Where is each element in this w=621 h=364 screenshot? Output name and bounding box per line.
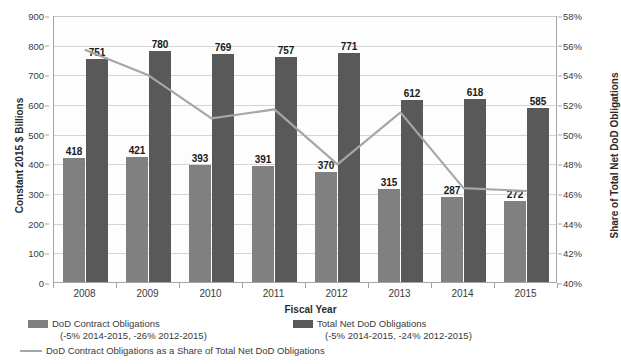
tick-mark xyxy=(45,224,49,225)
tick-mark xyxy=(494,283,495,288)
y-axis-right-tick: 46% xyxy=(563,189,605,200)
legend-label: Total Net DoD Obligations xyxy=(317,318,426,329)
legend-label-group: Total Net DoD Obligations (-5% 2014-2015… xyxy=(317,318,472,342)
tick-mark xyxy=(558,253,562,254)
tick-mark xyxy=(431,283,432,288)
x-axis-tick-2010: 2010 xyxy=(181,288,241,299)
tick-mark xyxy=(558,75,562,76)
x-axis-tick-2015: 2015 xyxy=(496,288,556,299)
y-axis-right-tick: 48% xyxy=(563,159,605,170)
legend-swatch-icon xyxy=(28,320,48,328)
line-series-layer xyxy=(54,16,558,283)
tick-mark xyxy=(45,16,49,17)
share-line-series[interactable] xyxy=(86,50,527,191)
tick-mark xyxy=(558,224,562,225)
legend-item-total-net-dod-obligations[interactable]: Total Net DoD Obligations (-5% 2014-2015… xyxy=(293,318,472,342)
legend-sublabel: (-5% 2014-2015, -26% 2012-2015) xyxy=(52,330,207,341)
legend-item-share-line[interactable]: DoD Contract Obligations as a Share of T… xyxy=(20,345,325,357)
x-axis-tick-2012: 2012 xyxy=(307,288,367,299)
x-axis-tick-2014: 2014 xyxy=(433,288,493,299)
tick-mark xyxy=(116,283,117,288)
legend-swatch-icon xyxy=(293,320,313,328)
tick-mark xyxy=(558,46,562,47)
y-axis-right-tick: 54% xyxy=(563,70,605,81)
legend-line-icon xyxy=(20,350,42,352)
y-axis-right-tick: 52% xyxy=(563,100,605,111)
tick-mark xyxy=(45,135,49,136)
y-axis-right-title: Share of Total Net DoD Obligations xyxy=(609,31,620,281)
x-axis-tick-2008: 2008 xyxy=(55,288,115,299)
y-axis-left-tick: 0 xyxy=(0,278,44,289)
tick-mark xyxy=(45,253,49,254)
x-axis-title: Fiscal Year xyxy=(0,304,621,315)
legend-label-group: DoD Contract Obligations (-5% 2014-2015,… xyxy=(52,318,207,342)
chart-container: 4187514217803937693917573707713156122876… xyxy=(0,0,621,364)
x-axis-tick-2013: 2013 xyxy=(370,288,430,299)
tick-mark xyxy=(45,164,49,165)
x-axis-tick-2009: 2009 xyxy=(118,288,178,299)
y-axis-right-tick: 40% xyxy=(563,278,605,289)
legend-item-dod-contract-obligations[interactable]: DoD Contract Obligations (-5% 2014-2015,… xyxy=(28,318,207,342)
tick-mark xyxy=(558,194,562,195)
y-axis-left-title: Constant 2015 $ Billions xyxy=(14,41,25,271)
tick-mark xyxy=(242,283,243,288)
tick-mark xyxy=(558,164,562,165)
tick-mark xyxy=(45,283,49,284)
y-axis-right-tick: 56% xyxy=(563,40,605,51)
y-axis-right-tick: 50% xyxy=(563,129,605,140)
y-axis-left-tick: 900 xyxy=(0,11,44,22)
tick-mark xyxy=(368,283,369,288)
legend-label: DoD Contract Obligations as a Share of T… xyxy=(46,345,325,357)
chart-legend: DoD Contract Obligations (-5% 2014-2015,… xyxy=(0,318,621,364)
tick-mark xyxy=(558,135,562,136)
tick-mark xyxy=(557,283,558,288)
tick-mark xyxy=(179,283,180,288)
y-axis-right-tick: 58% xyxy=(563,11,605,22)
tick-mark xyxy=(558,16,562,17)
plot-area: 4187514217803937693917573707713156122876… xyxy=(53,16,557,283)
legend-sublabel: (-5% 2014-2015, -24% 2012-2015) xyxy=(317,330,472,341)
tick-mark xyxy=(53,283,54,288)
tick-mark xyxy=(305,283,306,288)
tick-mark xyxy=(45,75,49,76)
x-axis-tick-2011: 2011 xyxy=(244,288,304,299)
tick-mark xyxy=(45,105,49,106)
tick-mark xyxy=(558,283,562,284)
legend-label: DoD Contract Obligations xyxy=(52,318,160,329)
y-axis-right-tick: 42% xyxy=(563,248,605,259)
tick-mark xyxy=(558,105,562,106)
tick-mark xyxy=(45,46,49,47)
tick-mark xyxy=(45,194,49,195)
y-axis-right-tick: 44% xyxy=(563,218,605,229)
